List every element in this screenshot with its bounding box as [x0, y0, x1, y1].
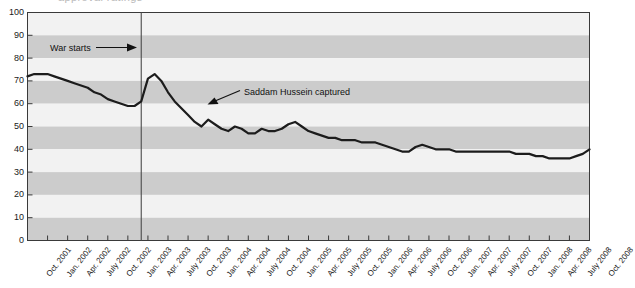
saddam-captured-annotation-label: Saddam Hussein captured: [244, 87, 350, 97]
grid-band: [28, 13, 590, 36]
grid-band: [28, 58, 590, 81]
grid-band: [28, 195, 590, 218]
grid-band: [28, 149, 590, 172]
grid-band: [28, 172, 590, 195]
war-starts-annotation-label: War starts: [50, 43, 91, 53]
x-tick-label: Oct. 2008: [607, 246, 635, 278]
grid-band: [28, 104, 590, 127]
grid-band: [28, 35, 590, 58]
